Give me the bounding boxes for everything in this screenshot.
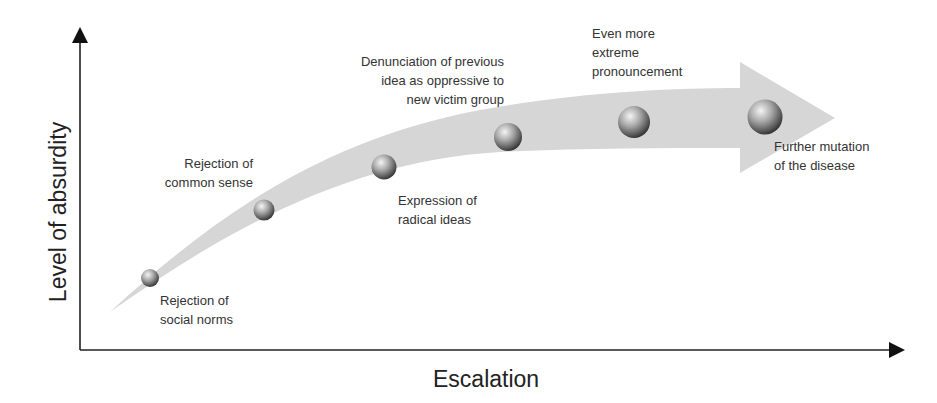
stage-2-sphere-icon xyxy=(254,200,275,221)
stage-4-sphere-icon xyxy=(494,123,522,151)
y-axis-label: Level of absurdity xyxy=(45,122,72,302)
stage-6-sphere-icon xyxy=(748,100,783,135)
stage-4-label: Denunciation of previous idea as oppress… xyxy=(338,52,504,109)
stage-3-label: Expression of radical ideas xyxy=(398,191,477,229)
stage-3-sphere-icon xyxy=(372,155,397,180)
stage-5-label: Even more extreme pronouncement xyxy=(592,24,682,81)
stage-6-label: Further mutation of the disease xyxy=(774,137,869,175)
stage-5-sphere-icon xyxy=(618,106,650,138)
x-axis-label: Escalation xyxy=(433,366,539,393)
stage-2-label: Rejection of common sense xyxy=(160,154,253,192)
y-axis-arrowhead-icon xyxy=(72,27,88,43)
stage-1-sphere-icon xyxy=(141,269,159,287)
stage-1-label: Rejection of social norms xyxy=(160,291,233,329)
x-axis-arrowhead-icon xyxy=(889,342,905,358)
